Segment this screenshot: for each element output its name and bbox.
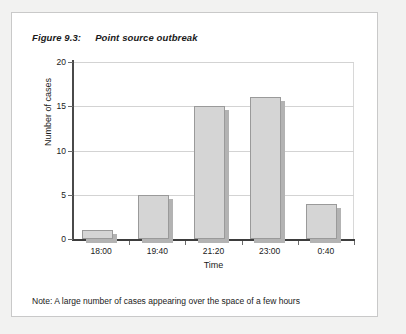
bar-body	[250, 97, 281, 239]
figure-caption: Point source outbreak	[95, 32, 197, 43]
bar-chart: 05101520 18:0019:4021:2023:000:40 Number…	[32, 57, 362, 272]
y-tick-mark	[68, 151, 73, 152]
y-tick-label: 15	[57, 101, 66, 111]
bar	[82, 230, 113, 239]
x-axis-title: Time	[73, 260, 354, 270]
y-tick-label: 5	[61, 190, 66, 200]
figure-number: Figure 9.3:	[32, 32, 81, 43]
x-tick-mark	[242, 241, 243, 245]
y-tick-label: 10	[57, 146, 66, 156]
bar-body	[138, 195, 169, 239]
x-tick-mark	[354, 241, 355, 245]
bar	[250, 97, 281, 239]
figure-card: Figure 9.3:Point source outbreak 0510152…	[11, 12, 378, 317]
gridline	[74, 62, 354, 63]
x-tick-label: 18:00	[90, 246, 111, 256]
x-tick-label: 23:00	[259, 246, 280, 256]
x-tick-mark	[298, 241, 299, 245]
x-tick-label: 19:40	[147, 246, 168, 256]
y-tick-mark	[68, 62, 73, 63]
y-tick-mark	[68, 239, 73, 240]
y-axis-title: Number of cases	[43, 52, 53, 172]
x-tick-label: 0:40	[318, 246, 335, 256]
x-tick-label: 21:20	[203, 246, 224, 256]
figure-note: Note: A large number of cases appearing …	[32, 296, 300, 306]
figure-title: Figure 9.3:Point source outbreak	[32, 32, 198, 43]
y-tick-label: 0	[61, 234, 66, 244]
bar	[194, 106, 225, 239]
bar-body	[194, 106, 225, 239]
x-tick-mark	[185, 241, 186, 245]
bar-body	[82, 230, 113, 239]
x-tick-mark	[129, 241, 130, 245]
y-tick-label: 20	[57, 57, 66, 67]
bar	[138, 195, 169, 239]
y-tick-mark	[68, 195, 73, 196]
bar-body	[306, 204, 337, 239]
bar	[306, 204, 337, 239]
y-tick-mark	[68, 106, 73, 107]
